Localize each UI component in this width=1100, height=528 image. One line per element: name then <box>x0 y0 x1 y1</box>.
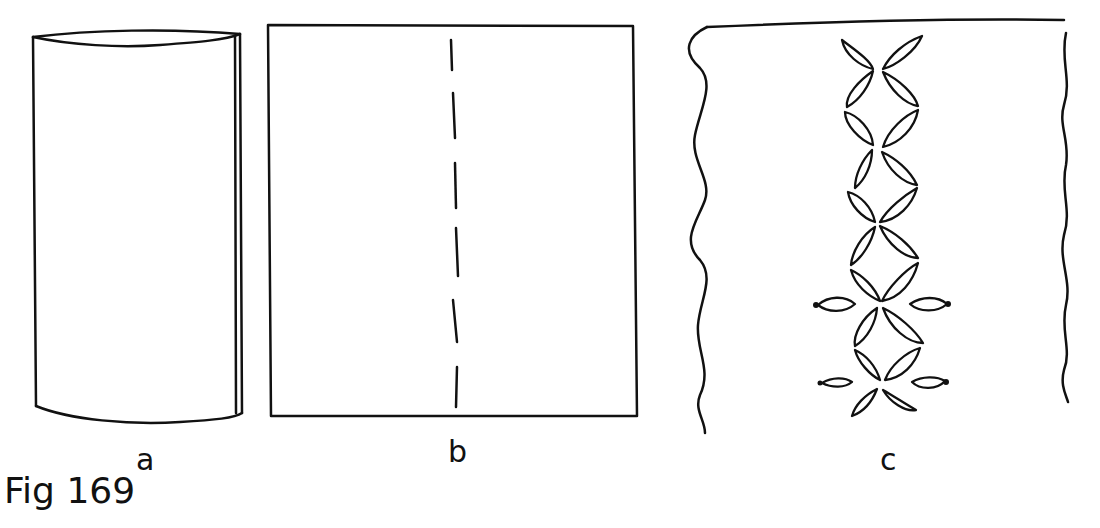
panel-label-b: b <box>448 434 467 469</box>
panel-label-a: a <box>136 442 154 477</box>
panel-c-strip <box>689 19 1068 433</box>
fold-line-dashed <box>451 40 458 407</box>
panel-label-c: c <box>880 442 897 477</box>
panel-a-tube <box>33 30 242 422</box>
figure-caption: Fig 169 <box>4 470 135 511</box>
panel-b-rectangle <box>268 25 637 416</box>
figure-drawing <box>0 0 1100 528</box>
petal-chain-motif <box>818 36 947 416</box>
